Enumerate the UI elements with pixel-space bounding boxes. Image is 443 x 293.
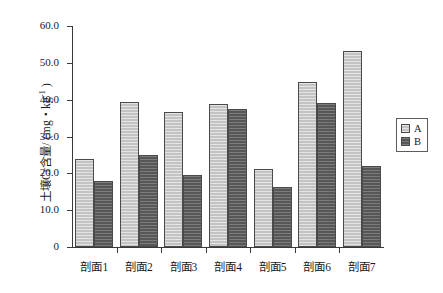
x-tick-4: [250, 248, 251, 253]
x-axis-line: [72, 247, 384, 248]
y-tick-2: 20.0: [67, 173, 72, 174]
x-tick-6: [339, 248, 340, 253]
x-tick-2: [161, 248, 162, 253]
y-tick-label-6: 60.0: [40, 19, 59, 32]
bar-group-6: [298, 26, 336, 247]
legend-label-a: A: [414, 123, 422, 134]
x-tick-5: [295, 248, 296, 253]
legend-swatch-a: [401, 124, 410, 133]
y-tick-label-4: 40.0: [40, 93, 59, 106]
chart-legend: A B: [396, 118, 428, 152]
y-tick-label-2: 20.0: [40, 166, 59, 179]
legend-label-b: B: [414, 136, 421, 147]
bar-group-3: [164, 26, 202, 247]
bar-剖面1-A: [75, 159, 94, 247]
bar-剖面3-A: [164, 112, 183, 247]
bar-剖面1-B: [94, 181, 113, 247]
y-tick-4: 40.0: [67, 100, 72, 101]
y-tick-6: 60.0: [67, 26, 72, 27]
x-tick-3: [206, 248, 207, 253]
bar-剖面7-B: [362, 166, 381, 247]
bar-group-7: [343, 26, 381, 247]
bar-chart-figure: 土壤Cr含量/ (mg・kg-1 ) 010.020.030.040.050.0…: [0, 0, 443, 293]
y-tick-label-3: 30.0: [40, 130, 59, 143]
bar-剖面5-A: [254, 169, 273, 247]
bar-剖面7-A: [343, 51, 362, 247]
y-axis-title-prefix: 土壤Cr含量/ (mg・kg: [40, 97, 52, 202]
y-tick-label-5: 50.0: [40, 56, 59, 69]
plot-area: 010.020.030.040.050.060.0 剖面1剖面2剖面3剖面4剖面…: [72, 26, 384, 248]
bar-剖面6-A: [298, 82, 317, 247]
bar-剖面5-B: [273, 187, 292, 247]
bar-剖面2-B: [139, 155, 158, 247]
bar-剖面2-A: [120, 102, 139, 247]
y-tick-0: 0: [67, 247, 72, 248]
y-tick-5: 50.0: [67, 63, 72, 64]
bar-group-1: [75, 26, 113, 247]
y-tick-1: 10.0: [67, 210, 72, 211]
y-tick-3: 30.0: [67, 137, 72, 138]
legend-item-b: B: [401, 135, 422, 148]
y-axis-title-suffix: ): [40, 83, 52, 90]
y-tick-label-1: 10.0: [40, 203, 59, 216]
legend-swatch-b: [401, 137, 410, 146]
legend-item-a: A: [401, 122, 422, 135]
y-tick-label-0: 0: [54, 240, 60, 253]
x-tick-1: [117, 248, 118, 253]
bar-剖面4-A: [209, 104, 228, 247]
bar-剖面4-B: [228, 109, 247, 247]
bar-group-5: [254, 26, 292, 247]
x-axis-label-7: 剖面7: [327, 258, 397, 274]
bar-剖面6-B: [317, 103, 336, 247]
bar-group-2: [120, 26, 158, 247]
bar-group-4: [209, 26, 247, 247]
y-axis-line: [72, 26, 73, 248]
bar-剖面3-B: [183, 175, 202, 247]
